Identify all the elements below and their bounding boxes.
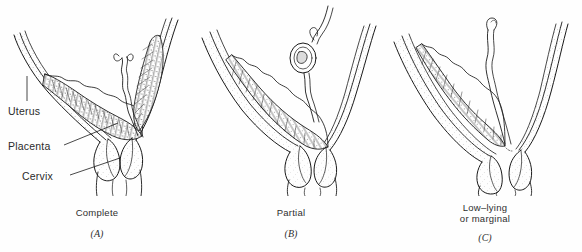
caption-panel-b: Partial <box>194 207 388 219</box>
figure-canvas: Uterus Placenta Cervix Complete (A) Part… <box>0 0 582 252</box>
caption-letter-b: (B) <box>194 228 388 239</box>
label-placenta: Placenta <box>8 140 50 152</box>
label-cervix: Cervix <box>22 170 53 182</box>
panel-c-illustration <box>388 0 582 196</box>
caption-panel-c-line1: Low–lying <box>388 202 582 214</box>
caption-panel-a: Complete <box>0 207 194 219</box>
panel-partial-previa <box>194 0 388 196</box>
caption-letter-c: (C) <box>388 232 582 243</box>
panel-b-illustration <box>194 0 388 196</box>
panel-low-lying-previa <box>388 0 582 196</box>
caption-letter-a: (A) <box>0 228 194 239</box>
panel-a-illustration <box>0 0 194 196</box>
label-uterus: Uterus <box>8 105 40 117</box>
caption-panel-c-line2: or marginal <box>388 213 582 225</box>
panel-complete-previa <box>0 0 194 196</box>
